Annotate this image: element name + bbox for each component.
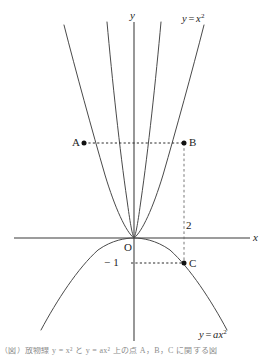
curve-label-down-base-ax: ax — [213, 329, 223, 340]
curve-label-exponent: 2 — [201, 12, 205, 20]
point-a-marker — [82, 141, 87, 146]
point-c-marker — [182, 261, 187, 266]
clipped-caption: （図）放物線 y = x² と y = ax² 上の点 A，B，C に関する図 — [0, 347, 267, 355]
coordinate-plot-svg — [0, 0, 267, 355]
math-figure: y x O y=x2 y=ax2 A B C 2 − 1 （図）放物線 y = … — [0, 0, 267, 355]
curve-label-equals: = — [187, 13, 196, 24]
point-c-label: C — [189, 258, 197, 269]
point-b-label: B — [189, 137, 197, 148]
clipped-caption-text: （図）放物線 y = x² と y = ax² 上の点 A，B，C に関する図 — [0, 347, 267, 355]
tick-label-x-two: 2 — [186, 220, 192, 231]
curve-label-down-exponent: 2 — [223, 328, 227, 336]
y-axis-label: y — [130, 10, 135, 21]
point-b-marker — [182, 141, 187, 146]
curve-label-down-equals: = — [204, 329, 213, 340]
origin-label: O — [124, 242, 132, 253]
x-axis-label: x — [253, 232, 258, 243]
tick-label-y-minus-one: − 1 — [104, 257, 119, 268]
curve-label-y-equals-x-squared: y=x2 — [182, 14, 205, 25]
curve-label-y-equals-a-x-squared: y=ax2 — [199, 330, 227, 341]
point-a-label: A — [72, 137, 80, 148]
